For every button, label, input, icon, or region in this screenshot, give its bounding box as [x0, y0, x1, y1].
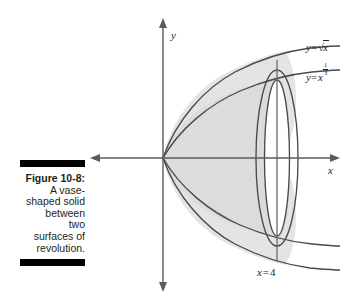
exponent-fraction: 13: [323, 62, 328, 76]
y-axis-arrow-down: [159, 282, 167, 292]
x-axis-label: x: [328, 164, 333, 176]
caption-line-0: Figure 10-8:: [0, 173, 85, 185]
y-axis-label: y: [171, 29, 176, 41]
caption-line-6: revolution.: [0, 243, 85, 255]
legend-label-sqrt: y= √x: [306, 40, 329, 53]
y-axis-arrow-up: [159, 18, 167, 28]
figure-caption: Figure 10-8: A vase- shaped solid betwee…: [0, 167, 92, 259]
caption-rule-top: [20, 160, 85, 167]
x-equals-4-label: x = 4: [257, 266, 275, 278]
x-axis-arrow-right: [330, 154, 340, 162]
legend-label-cbrt: y= x13: [306, 64, 328, 83]
figure-caption-block: Figure 10-8: A vase- shaped solid betwee…: [0, 160, 92, 266]
figure-container: y x y= √x y= x13 x = 4 Figure 10-8: A va…: [0, 0, 364, 307]
caption-line-5: surfaces of: [0, 231, 85, 243]
caption-rule-bottom: [20, 259, 85, 266]
